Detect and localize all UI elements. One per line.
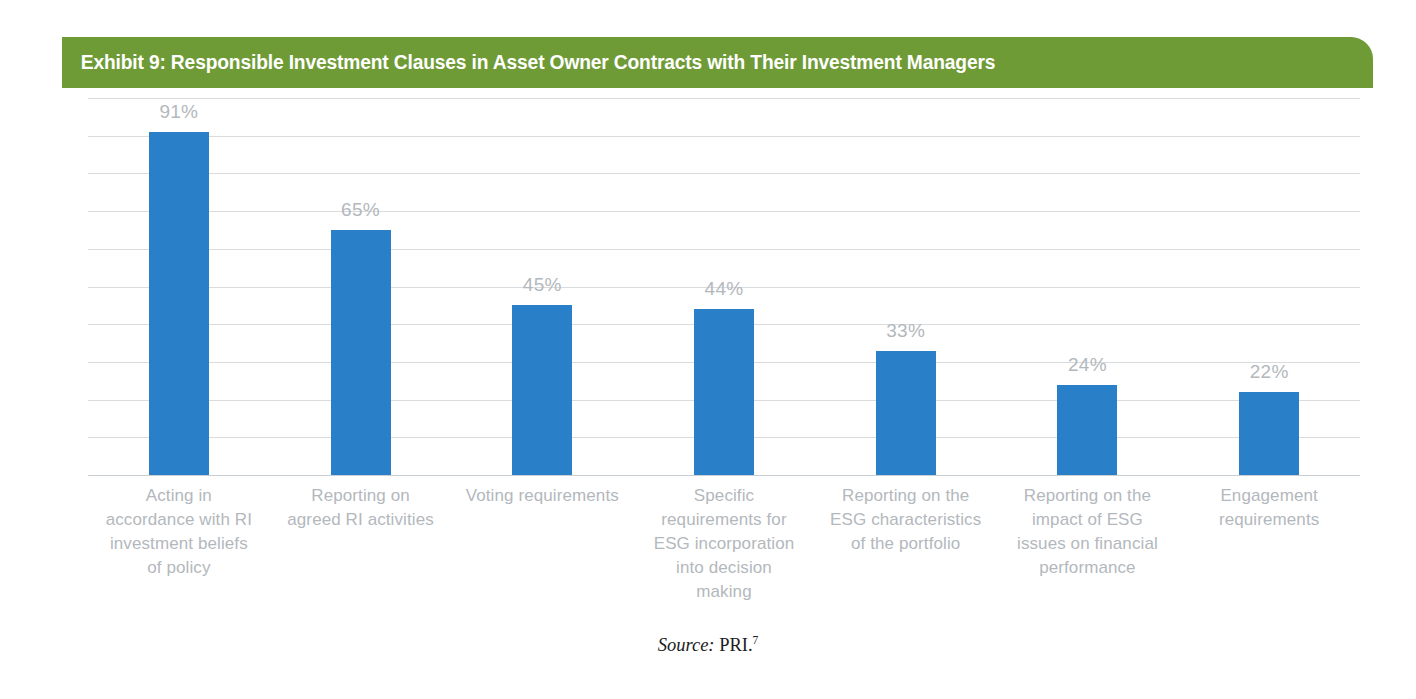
source-note: Source: PRI.7 <box>0 634 1416 656</box>
chart-bars: 91%65%45%44%33%24%22% <box>88 98 1360 475</box>
bar <box>694 309 754 475</box>
category-label: Specific requirements for ESG incorporat… <box>633 484 815 604</box>
axis-baseline <box>88 475 1360 476</box>
bar-value-label: 44% <box>705 278 744 300</box>
category-label: Reporting on the impact of ESG issues on… <box>997 484 1179 580</box>
bar-group: 24% <box>997 98 1179 475</box>
chart-plot-area: 91%65%45%44%33%24%22% Acting in accordan… <box>0 0 1416 699</box>
bar-value-label: 22% <box>1250 361 1289 383</box>
category-label: Reporting on the ESG characteristics of … <box>815 484 997 556</box>
bar-value-label: 33% <box>886 320 925 342</box>
bar <box>512 305 572 475</box>
bar-group: 44% <box>633 98 815 475</box>
bar-value-label: 65% <box>341 199 380 221</box>
bar <box>331 230 391 475</box>
source-prefix: Source: <box>658 635 715 655</box>
exhibit-figure: Exhibit 9: Responsible Investment Clause… <box>0 0 1416 699</box>
category-label: Acting in accordance with RI investment … <box>88 484 270 580</box>
bar <box>1057 385 1117 475</box>
bar-group: 33% <box>815 98 997 475</box>
chart-category-labels: Acting in accordance with RI investment … <box>88 484 1360 624</box>
category-label: Voting requirements <box>451 484 633 508</box>
source-body: PRI. <box>715 635 753 655</box>
bar-value-label: 24% <box>1068 354 1107 376</box>
bar-group: 45% <box>451 98 633 475</box>
bar <box>876 351 936 475</box>
bar <box>1239 392 1299 475</box>
category-label: Engagement requirements <box>1178 484 1360 532</box>
bar-group: 91% <box>88 98 270 475</box>
category-label: Reporting on agreed RI activities <box>270 484 452 532</box>
bar-value-label: 91% <box>159 101 198 123</box>
bar-group: 65% <box>270 98 452 475</box>
bar-group: 22% <box>1178 98 1360 475</box>
bar-value-label: 45% <box>523 274 562 296</box>
bar <box>149 132 209 475</box>
source-footnote-marker: 7 <box>753 634 759 646</box>
